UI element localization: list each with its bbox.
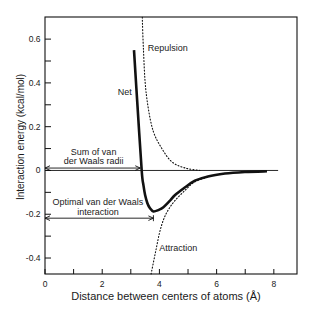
y-tick-label: 0.6: [29, 34, 41, 44]
repulsion-curve-label: Repulsion: [148, 43, 188, 53]
plot-frame: [45, 17, 297, 274]
y-tick-label: 0.2: [29, 122, 41, 132]
net-curve: [134, 50, 267, 211]
x-tick-label: 8: [271, 279, 276, 289]
repulsion-curve: [142, 17, 200, 170]
attraction-curve-label: Attraction: [159, 243, 197, 253]
y-tick-label: 0: [36, 165, 41, 175]
y-tick-label: -0.2: [26, 209, 41, 219]
y-tick-label: -0.4: [26, 253, 41, 263]
y-tick-label: 0.4: [29, 78, 41, 88]
y-axis-title: Interaction energy (kcal/mol): [15, 74, 26, 200]
x-tick-label: 0: [43, 279, 48, 289]
optimal-vdw-label-line2: interaction: [77, 207, 119, 217]
sum-vdw-radii-arrow: [45, 166, 140, 171]
interaction-energy-chart: 024680.60.40.20-0.2-0.4 Net Repulsion At…: [0, 0, 309, 313]
x-tick-label: 6: [214, 279, 219, 289]
x-tick-label: 4: [157, 279, 162, 289]
energy-curves: [134, 17, 267, 274]
net-curve-label: Net: [118, 87, 133, 97]
x-axis-title: Distance between centers of atoms (Å): [71, 290, 261, 302]
x-tick-label: 2: [100, 279, 105, 289]
sum-vdw-radii-label-line2: der Waals radii: [64, 156, 124, 166]
optimal-vdw-label-line1: Optimal van der Waals: [53, 197, 144, 207]
